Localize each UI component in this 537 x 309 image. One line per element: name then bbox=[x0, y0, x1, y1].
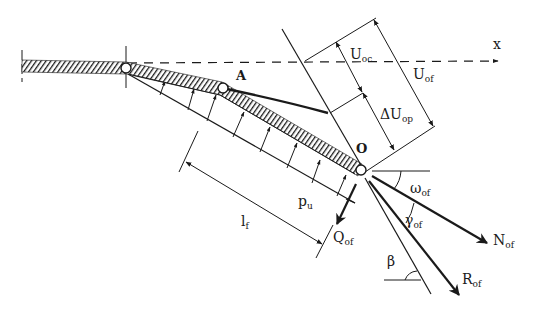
omega-of-label: ωof bbox=[410, 180, 431, 198]
chord-line: A bbox=[222, 68, 328, 113]
node-a bbox=[218, 83, 228, 93]
x-axis-label: x bbox=[493, 36, 501, 52]
q-of-label: Qof bbox=[333, 229, 354, 247]
deflected-beam bbox=[22, 60, 362, 176]
n-of-label: Nof bbox=[493, 232, 515, 250]
pu-label: pu bbox=[298, 193, 313, 211]
x-axis: x bbox=[128, 36, 501, 63]
r-of-label: Rof bbox=[462, 271, 482, 289]
r-of-arrow bbox=[369, 181, 459, 295]
forces-at-o: Qof Nof Rof β ωof γof bbox=[333, 171, 515, 295]
beta-label: β bbox=[387, 253, 395, 269]
gamma-of-label: γof bbox=[405, 212, 423, 230]
structural-diagram: x pu A bbox=[0, 0, 537, 309]
node-o bbox=[356, 165, 366, 175]
u-oc-label: Uoc bbox=[350, 46, 372, 64]
lf-label: lf bbox=[241, 213, 249, 231]
delta-u-op-label: ΔUop bbox=[380, 106, 413, 124]
point-o-label: O bbox=[356, 141, 367, 156]
length-dimension-lf: lf bbox=[179, 131, 333, 258]
u-of-label: Uof bbox=[413, 66, 434, 84]
n-of-arrow bbox=[372, 176, 487, 243]
node-left bbox=[121, 63, 131, 73]
point-a-label: A bbox=[235, 68, 247, 83]
